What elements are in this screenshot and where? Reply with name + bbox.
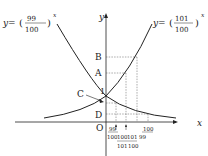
point-D-label: D (95, 110, 102, 120)
svg-text:100: 100 (25, 26, 38, 34)
x-tick-101-100: 101 100 (125, 124, 139, 149)
curve-decreasing (57, 24, 176, 118)
svg-text:99: 99 (27, 15, 36, 23)
svg-text:100: 100 (143, 126, 154, 132)
point-C-label: C (77, 89, 84, 99)
x-axis-label: x (197, 118, 202, 128)
svg-text:x: x (53, 11, 57, 18)
svg-text:): ) (195, 17, 199, 28)
svg-text:101: 101 (175, 15, 188, 23)
svg-text:(: ( (169, 17, 173, 28)
point-B-label: B (95, 52, 102, 62)
curve-right-label: y= ( 101 100 ) x (152, 11, 205, 34)
svg-text:99: 99 (139, 134, 146, 140)
y-axis-arrow (104, 13, 108, 18)
svg-text:101: 101 (117, 143, 128, 149)
svg-text:101: 101 (127, 134, 138, 140)
point-A-label: A (94, 68, 102, 78)
svg-text:y=: y= (152, 18, 166, 28)
y-axis-label: y (98, 12, 105, 22)
exponential-diagram: y x O 1 B A C D y= ( 99 100 ) x y= ( 101… (0, 0, 208, 156)
origin-label: O (96, 123, 103, 133)
svg-text:x: x (201, 11, 205, 18)
svg-text:100: 100 (128, 143, 139, 149)
curve-left-label: y= ( 99 100 ) x (2, 11, 57, 34)
x-tick-100-99: 100 99 (139, 126, 154, 140)
svg-text:): ) (47, 17, 51, 28)
svg-text:(: ( (19, 17, 23, 28)
svg-text:y=: y= (2, 18, 16, 28)
one-label: 1 (100, 87, 105, 96)
x-axis-arrow (173, 120, 178, 124)
svg-text:100: 100 (175, 26, 188, 34)
